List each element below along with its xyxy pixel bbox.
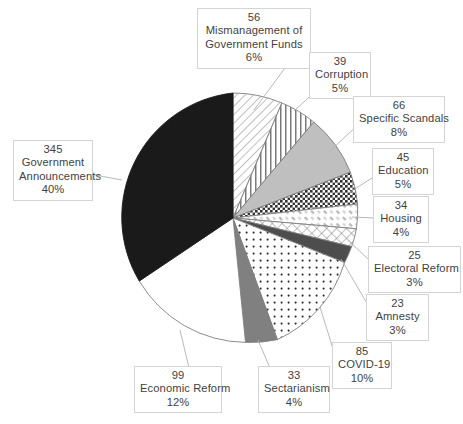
label-name: Specific Scandals [359, 112, 439, 125]
pie-slices [122, 93, 358, 342]
label-percent: 4% [264, 396, 324, 409]
label-name: Amnesty [372, 310, 423, 323]
label-name: Economic Reform [140, 382, 216, 395]
label-amnesty[interactable]: 23 Amnesty 3% [366, 294, 429, 341]
label-percent: 10% [338, 372, 386, 385]
label-percent: 6% [203, 51, 305, 64]
label-percent: 3% [374, 276, 455, 289]
label-covid[interactable]: 85 COVID-19 10% [332, 342, 392, 389]
label-name: Corruption [315, 68, 365, 81]
label-percent: 8% [359, 126, 439, 139]
label-value: 345 [19, 143, 87, 156]
label-name: Sectarianism [264, 382, 324, 395]
label-economic-reform[interactable]: 99 Economic Reform 12% [134, 366, 222, 413]
label-value: 25 [374, 249, 455, 262]
label-name-line2: Government Funds [203, 38, 305, 51]
label-value: 39 [315, 55, 365, 68]
pie-chart: 56 Mismanagement of Government Funds 6% … [0, 0, 463, 424]
label-value: 33 [264, 369, 324, 382]
label-mismanagement[interactable]: 56 Mismanagement of Government Funds 6% [197, 8, 311, 69]
label-name: Education [378, 164, 428, 177]
label-name: COVID-19 [338, 358, 386, 371]
label-percent: 3% [372, 324, 423, 337]
label-value: 34 [379, 199, 423, 212]
label-corruption[interactable]: 39 Corruption 5% [309, 52, 371, 99]
label-specific-scandals[interactable]: 66 Specific Scandals 8% [353, 96, 445, 143]
label-percent: 4% [379, 226, 423, 239]
label-percent: 5% [315, 82, 365, 95]
label-value: 23 [372, 297, 423, 310]
leader-electoral-reform [348, 240, 370, 261]
label-name: Electoral Reform [374, 262, 455, 275]
label-electoral-reform[interactable]: 25 Electoral Reform 3% [368, 246, 461, 293]
label-housing[interactable]: 34 Housing 4% [373, 196, 429, 243]
label-value: 85 [338, 345, 386, 358]
label-value: 56 [203, 11, 305, 24]
label-education[interactable]: 45 Education 5% [372, 148, 434, 195]
label-name-line1: Mismanagement of [203, 24, 305, 37]
label-value: 45 [378, 151, 428, 164]
label-value: 66 [359, 99, 439, 112]
label-value: 99 [140, 369, 216, 382]
label-name-line1: Government [19, 156, 87, 169]
label-name: Housing [379, 212, 423, 225]
label-percent: 40% [19, 183, 87, 196]
label-percent: 5% [378, 178, 428, 191]
label-sectarianism[interactable]: 33 Sectarianism 4% [258, 366, 330, 413]
label-name-line2: Announcements [19, 170, 87, 183]
label-percent: 12% [140, 396, 216, 409]
label-government-announcements[interactable]: 345 Government Announcements 40% [13, 140, 93, 201]
leader-amnesty [341, 259, 368, 305]
